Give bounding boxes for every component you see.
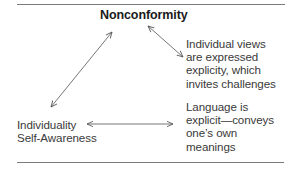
node-line: are expressed — [186, 50, 276, 63]
individuality-node: Individuality Self-Awareness — [17, 118, 97, 144]
node-line: Individuality — [17, 118, 97, 131]
node-line: Individual views — [186, 37, 276, 50]
top-rule — [17, 4, 285, 5]
node-line: explicity, which — [186, 63, 276, 76]
diagram-title: Nonconformity — [100, 8, 188, 22]
node-line: meanings — [186, 140, 274, 153]
language-node: Language is explicit—conveys one’s own m… — [186, 100, 274, 153]
double-arrow-icon — [51, 32, 112, 107]
double-arrow-icon — [148, 26, 183, 57]
node-line: one’s own — [186, 126, 274, 139]
individual-views-node: Individual views are expressed explicity… — [186, 37, 276, 90]
node-line: Self-Awareness — [17, 131, 97, 144]
node-line: invites challenges — [186, 77, 276, 90]
node-line: Language is — [186, 100, 274, 113]
bottom-rule — [17, 162, 284, 163]
node-line: explicit—conveys — [186, 113, 274, 126]
